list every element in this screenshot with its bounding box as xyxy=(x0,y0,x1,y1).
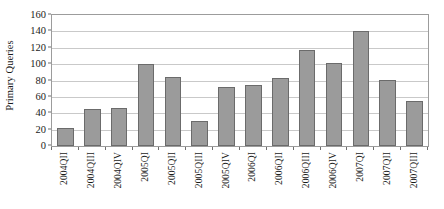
gridline xyxy=(52,48,428,49)
x-axis-tick-label-text: 2006QIII xyxy=(301,152,311,188)
bar xyxy=(138,64,155,146)
bar xyxy=(353,31,370,146)
x-axis-tick-label-text: 2005QII xyxy=(167,152,177,185)
x-axis-tick-label: 2007QIII xyxy=(400,150,427,208)
bar xyxy=(218,87,235,146)
x-axis-tick-label-text: 2007QII xyxy=(382,152,392,185)
x-axis-tick-label: 2005QIII xyxy=(185,150,212,208)
x-axis-tick-label: 2006QI xyxy=(239,150,266,208)
y-axis-tick-label: 140 xyxy=(30,25,46,36)
x-axis-tick-label: 2004QII xyxy=(51,150,78,208)
y-axis-tick-label: 40 xyxy=(36,107,47,118)
gridline xyxy=(52,64,428,65)
x-axis-tick-label: 2007QII xyxy=(373,150,400,208)
gridline xyxy=(52,81,428,82)
y-axis-tick-label: 20 xyxy=(36,123,47,134)
x-axis-tick-label: 2005QI xyxy=(132,150,159,208)
bar xyxy=(326,63,343,147)
x-axis-tick-label: 2005QII xyxy=(158,150,185,208)
x-axis-tick-label-text: 2005QIV xyxy=(221,152,231,189)
x-axis-tick-labels: 2004QII2004QIII2004QIV2005QI2005QII2005Q… xyxy=(51,150,429,208)
x-axis-tick-label-text: 2004QII xyxy=(59,152,69,185)
y-axis-title-text: Primary Queries xyxy=(4,40,15,111)
plot-area xyxy=(51,14,429,147)
x-axis-tick-label-text: 2007QI xyxy=(355,152,365,182)
bar xyxy=(84,109,101,146)
bar xyxy=(165,77,182,146)
y-axis-tick-label: 60 xyxy=(36,90,47,101)
y-axis-tick-label: 120 xyxy=(30,41,46,52)
bar xyxy=(111,108,128,146)
bar xyxy=(191,121,208,146)
x-axis-tick-label-text: 2005QI xyxy=(140,152,150,182)
x-axis-tick-label: 2005QIV xyxy=(212,150,239,208)
x-axis-tick-label-text: 2006QI xyxy=(247,152,257,182)
bar xyxy=(272,78,289,146)
x-axis-tick-label-text: 2007QIII xyxy=(409,152,419,188)
bar-chart: Primary Queries 020406080100120140160 20… xyxy=(0,0,444,209)
x-axis-tick-label: 2007QI xyxy=(346,150,373,208)
bar xyxy=(406,101,423,146)
gridline xyxy=(52,130,428,131)
x-axis-tick-label-text: 2006QIV xyxy=(328,152,338,189)
gridline xyxy=(52,97,428,98)
bar xyxy=(57,128,74,146)
bar xyxy=(299,50,316,146)
bar xyxy=(379,80,396,146)
x-axis-tick-label: 2004QIII xyxy=(78,150,105,208)
y-axis-title: Primary Queries xyxy=(0,0,18,150)
bar xyxy=(245,85,262,146)
y-axis-tick-labels: 020406080100120140160 xyxy=(18,10,48,148)
x-axis-tick-label-text: 2006QII xyxy=(274,152,284,185)
gridline xyxy=(52,113,428,114)
gridline xyxy=(52,31,428,32)
x-axis-tick-label-text: 2004QIII xyxy=(86,152,96,188)
x-axis-tick-label: 2006QII xyxy=(266,150,293,208)
x-axis-tick-label: 2006QIV xyxy=(320,150,347,208)
x-axis-tick-label: 2004QIV xyxy=(105,150,132,208)
x-axis-tick-label-text: 2004QIV xyxy=(113,152,123,189)
x-axis-tick-label-text: 2005QIII xyxy=(194,152,204,188)
y-axis-tick-label: 100 xyxy=(30,58,46,69)
y-axis-tick-label: 0 xyxy=(41,140,46,151)
x-axis-tick-label: 2006QIII xyxy=(293,150,320,208)
y-axis-tick-label: 80 xyxy=(36,74,47,85)
y-axis-tick-label: 160 xyxy=(30,9,46,20)
